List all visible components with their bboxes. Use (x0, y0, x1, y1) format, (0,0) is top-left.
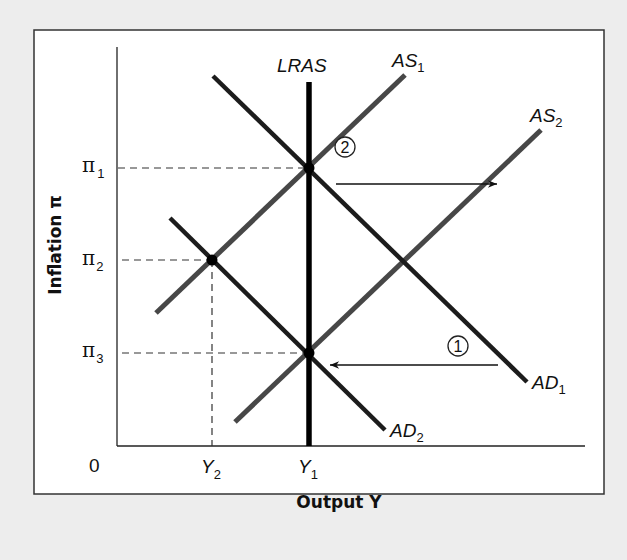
ad2-label-sub: 2 (416, 430, 423, 445)
y-tick-pi2-symbol: π (82, 246, 95, 270)
y-tick-pi2-sub: 2 (96, 259, 103, 274)
x-tick-y1-sub: 1 (311, 467, 318, 482)
y-axis-title: Inflation π (45, 195, 65, 295)
step-2-label: 2 (341, 139, 350, 156)
ad2-label-main: AD (389, 420, 417, 441)
equilibrium-point-3 (304, 348, 315, 359)
ad1-label-main: AD (531, 372, 559, 393)
as2-label-main: AS (529, 105, 556, 126)
equilibrium-point-1 (304, 163, 315, 174)
lras-label: LRAS (277, 55, 327, 76)
ad-as-diagram: 2 1 LRAS AS1 AS2 AD1 AD2 π1 π2 π3 0 Y2 Y… (0, 0, 627, 560)
x-tick-y2-sub: 2 (214, 467, 221, 482)
as2-label-sub: 2 (555, 115, 562, 130)
as1-label-sub: 1 (417, 60, 424, 75)
equilibrium-point-2 (207, 255, 218, 266)
y-tick-pi1-symbol: π (82, 153, 95, 177)
y-tick-pi1-sub: 1 (97, 166, 104, 181)
as1-label-main: AS (391, 50, 418, 71)
ad1-label-sub: 1 (558, 382, 565, 397)
step-1-badge: 1 (448, 336, 468, 356)
y-tick-pi3-symbol: π (82, 338, 95, 362)
figure-frame (34, 30, 604, 494)
origin-label: 0 (89, 455, 100, 476)
y-tick-pi3-sub: 3 (96, 351, 103, 366)
step-2-badge: 2 (335, 137, 355, 157)
x-axis-title: Output Y (296, 492, 382, 512)
step-1-label: 1 (454, 338, 463, 355)
